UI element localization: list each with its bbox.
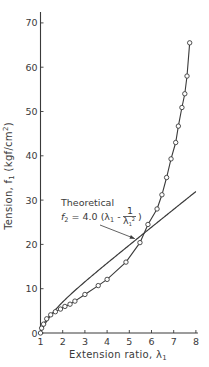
tension-vs-extension-chart: 01020304050607012345678 Theoretical f2 =…: [0, 0, 209, 367]
x-axis-title: Extension ratio, λ1: [69, 349, 167, 362]
theoretical-annotation: Theoretical f2 = 4.0 (λ1 - 1 λ12 ): [60, 197, 142, 239]
data-point-marker: [105, 277, 109, 281]
data-point-marker: [96, 283, 100, 287]
data-point-marker: [173, 140, 177, 144]
annotation-arrow: [100, 225, 135, 239]
x-tick-label: 6: [148, 336, 154, 347]
annotation-formula: f2 = 4.0 (λ1 -: [61, 211, 121, 224]
x-tick-label: 8: [193, 336, 199, 347]
data-point-marker: [160, 193, 164, 197]
y-tick-label: 40: [25, 150, 37, 161]
axes: 01020304050607012345678: [25, 12, 199, 347]
y-tick-label: 10: [25, 283, 37, 294]
y-tick-label: 60: [25, 62, 37, 73]
y-tick-label: 70: [25, 17, 37, 28]
x-tick-label: 7: [171, 336, 177, 347]
data-point-marker: [183, 92, 187, 96]
x-tick-label: 1: [37, 336, 43, 347]
data-point-marker: [155, 207, 159, 211]
data-point-marker: [38, 331, 42, 335]
y-tick-label: 20: [25, 239, 37, 250]
experimental-line: [41, 43, 190, 333]
y-tick-label: 50: [25, 106, 37, 117]
data-point-marker: [185, 74, 189, 78]
data-point-marker: [53, 310, 57, 314]
data-point-marker: [73, 299, 77, 303]
data-point-marker: [124, 260, 128, 264]
y-tick-label: 30: [25, 195, 37, 206]
arrow-shaft: [100, 225, 135, 239]
data-point-marker: [45, 317, 49, 321]
annotation-title: Theoretical: [60, 197, 114, 208]
data-point-marker: [180, 105, 184, 109]
data-point-marker: [58, 307, 62, 311]
experimental-curve: [38, 41, 192, 336]
y-axis-title: Tension, f1 (kgf/cm2): [2, 122, 16, 231]
data-point-marker: [83, 292, 87, 296]
data-point-marker: [68, 302, 72, 306]
data-point-marker: [63, 304, 67, 308]
data-point-marker: [164, 175, 168, 179]
data-point-marker: [187, 41, 191, 45]
arrow-head-icon: [129, 235, 134, 239]
x-tick-label: 2: [60, 336, 66, 347]
data-point-marker: [49, 313, 53, 317]
x-tick-label: 3: [82, 336, 88, 347]
data-point-marker: [138, 240, 142, 244]
x-tick-label: 4: [104, 336, 110, 347]
x-tick-label: 5: [126, 336, 132, 347]
data-point-marker: [176, 124, 180, 128]
data-point-marker: [169, 157, 173, 161]
data-point-marker: [146, 222, 150, 226]
annotation-close-paren: ): [138, 211, 142, 222]
data-point-marker: [41, 322, 45, 326]
